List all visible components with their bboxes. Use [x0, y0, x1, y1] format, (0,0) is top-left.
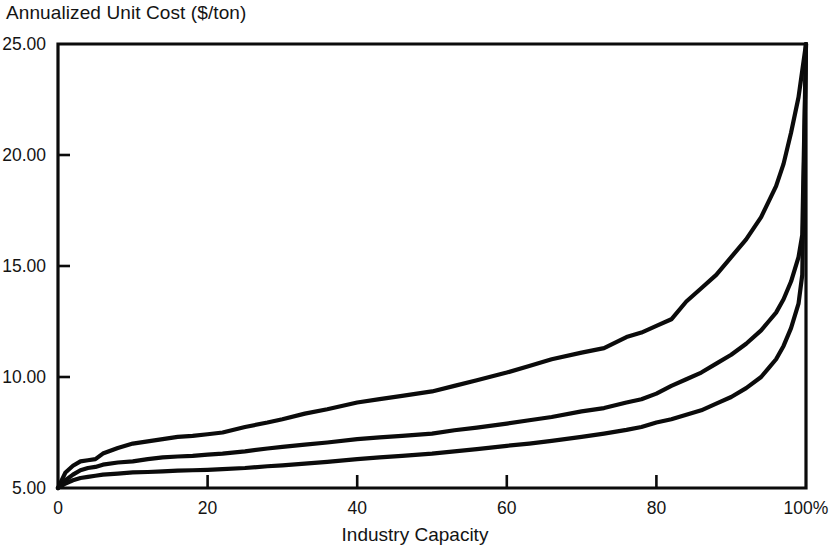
x-axis-tick-label: 40 — [347, 498, 367, 518]
middle-cost-curve — [58, 44, 806, 488]
lower-cost-curve — [58, 44, 806, 488]
upper-cost-curve — [58, 44, 806, 488]
y-axis-tick-label: 20.00 — [2, 145, 46, 165]
data-curves — [58, 44, 806, 488]
x-axis-tick-label: 20 — [198, 498, 218, 518]
x-axis-tick-label: 80 — [647, 498, 667, 518]
y-axis-tick-label: 25.00 — [2, 34, 46, 54]
x-axis-ticks — [208, 475, 657, 488]
x-axis-title: Industry Capacity — [0, 524, 830, 546]
x-axis-tick-label: 60 — [497, 498, 517, 518]
y-axis-tick-label: 5.00 — [12, 478, 46, 498]
y-axis-tick-labels: 5.0010.0015.0020.0025.00 — [2, 34, 46, 498]
chart-figure: Annualized Unit Cost ($/ton) 5.0010.0015… — [0, 0, 830, 558]
chart-plot-area: 5.0010.0015.0020.0025.00 020406080100% — [0, 0, 830, 558]
x-axis-tick-label: 0 — [53, 498, 63, 518]
x-axis-tick-labels: 020406080100% — [53, 498, 828, 518]
y-axis-tick-label: 15.00 — [2, 256, 46, 276]
plot-frame — [58, 44, 806, 488]
y-axis-ticks — [58, 155, 70, 377]
y-axis-tick-label: 10.00 — [2, 367, 46, 387]
x-axis-tick-label: 100% — [784, 498, 829, 518]
